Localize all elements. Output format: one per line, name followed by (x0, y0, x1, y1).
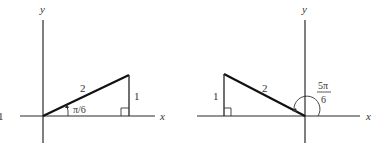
left-y-axis-label: y (39, 3, 45, 15)
right-panel: y x 2 1 5π 6 (197, 3, 371, 143)
right-y-axis-label: y (301, 3, 307, 15)
left-hypotenuse (43, 75, 129, 116)
left-x-axis-label: x (159, 110, 165, 122)
left-edge-fragment-label: 1 (0, 110, 4, 122)
right-angle-numerator: 5π (318, 80, 328, 91)
trig-reference-triangles-diagram: y x 2 1 π/6 1 y x 2 1 5π 6 (0, 0, 376, 150)
right-hypotenuse-label: 2 (262, 82, 268, 94)
right-hypotenuse (224, 74, 305, 116)
left-hypotenuse-label: 2 (80, 82, 86, 94)
right-right-angle-marker (224, 108, 231, 116)
right-angle-denominator: 6 (321, 94, 326, 105)
right-angle-fraction: 5π 6 (317, 80, 331, 105)
right-x-axis-label: x (365, 110, 371, 122)
left-angle-label: π/6 (73, 104, 86, 115)
left-opposite-label: 1 (134, 90, 140, 102)
right-opposite-label: 1 (213, 90, 219, 102)
left-panel: y x 2 1 π/6 1 (0, 3, 165, 143)
left-right-angle-marker (121, 108, 129, 116)
